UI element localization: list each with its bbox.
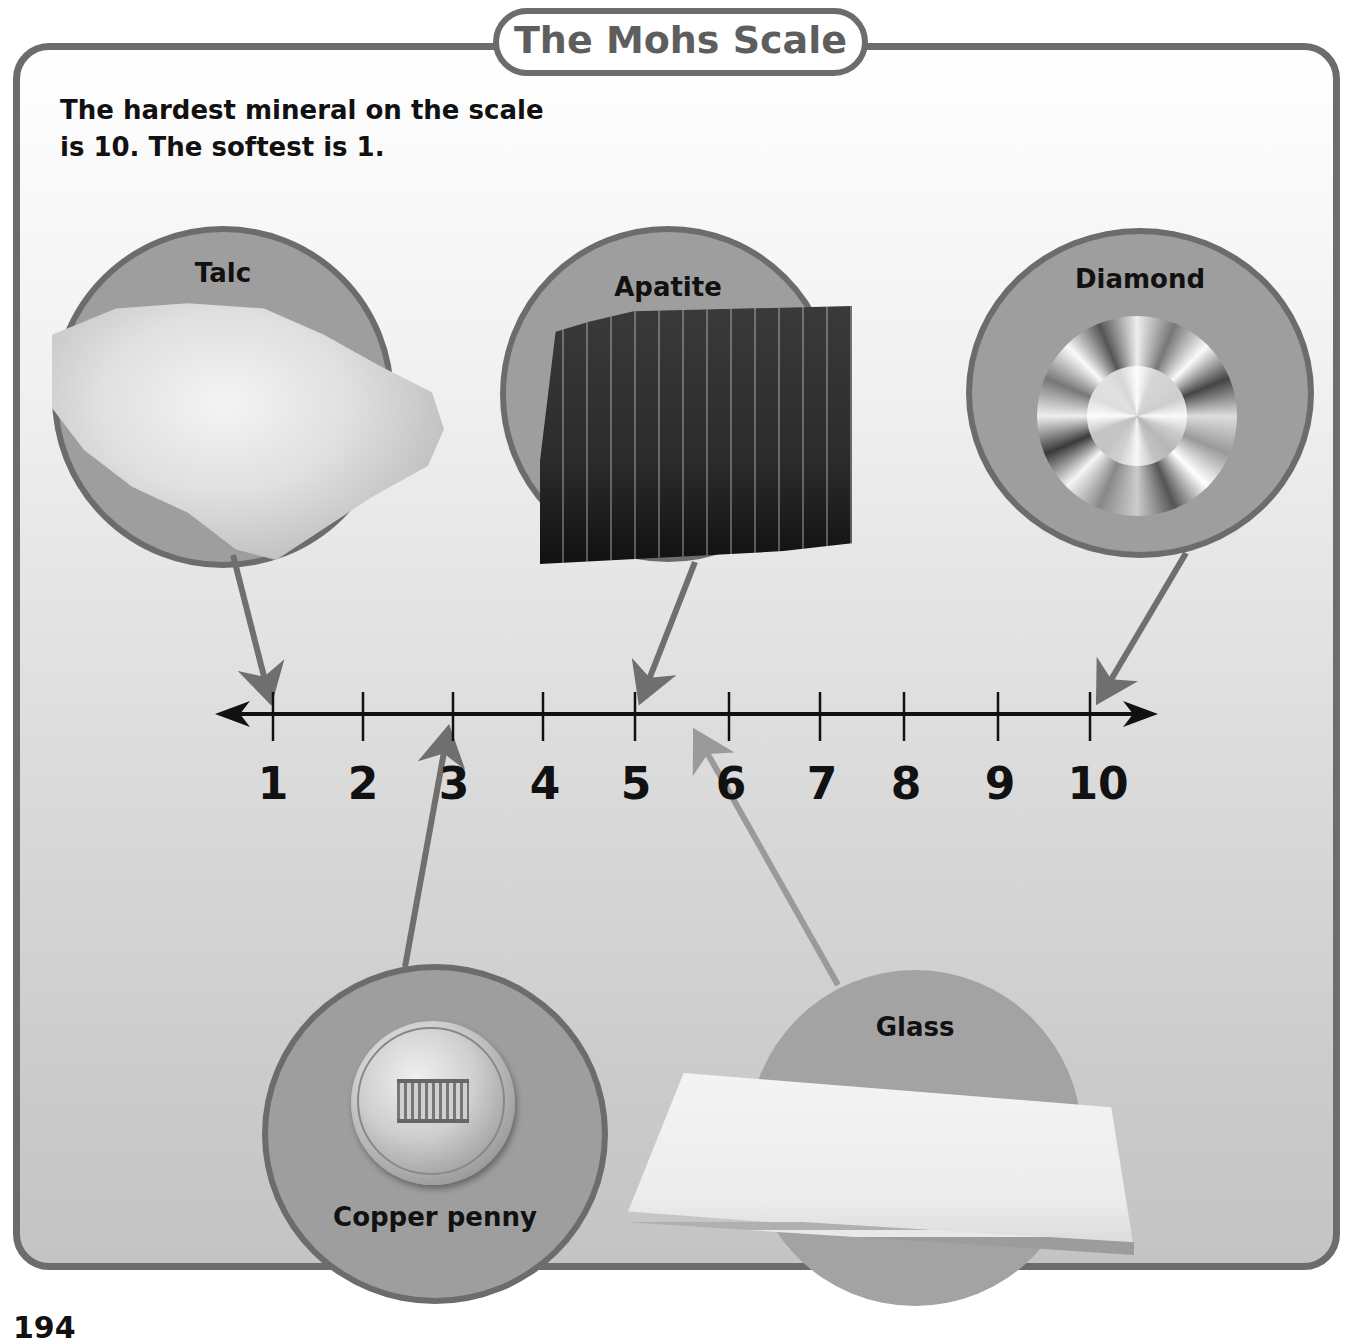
tick-label-6: 6 bbox=[691, 758, 771, 809]
tick-label-8: 8 bbox=[866, 758, 946, 809]
diamond-gem-image bbox=[1037, 316, 1237, 516]
talc-label: Talc bbox=[58, 258, 388, 288]
page-number: 194 bbox=[13, 1310, 76, 1342]
apatite-label: Apatite bbox=[506, 272, 830, 302]
tick-label-9: 9 bbox=[960, 758, 1040, 809]
intro-line-1: The hardest mineral on the scale bbox=[60, 92, 580, 129]
diagram-title: The Mohs Scale bbox=[514, 18, 847, 62]
tick-label-2: 2 bbox=[323, 758, 403, 809]
copper-penny-label: Copper penny bbox=[268, 1202, 602, 1232]
tick-label-3: 3 bbox=[414, 758, 494, 809]
penny-coin-image bbox=[351, 1021, 515, 1185]
diamond-facet-core bbox=[1087, 366, 1187, 466]
tick-label-4: 4 bbox=[505, 758, 585, 809]
intro-text: The hardest mineral on the scale is 10. … bbox=[60, 92, 580, 166]
tick-label-7: 7 bbox=[782, 758, 862, 809]
intro-line-2: is 10. The softest is 1. bbox=[60, 129, 580, 166]
title-banner: The Mohs Scale bbox=[493, 8, 868, 76]
glass-label: Glass bbox=[748, 1012, 1082, 1042]
apatite-specimen-image bbox=[540, 306, 852, 564]
diamond-label: Diamond bbox=[972, 264, 1308, 294]
tick-label-10: 10 bbox=[1058, 758, 1138, 809]
coin-memorial-icon bbox=[397, 1079, 469, 1123]
tick-label-1: 1 bbox=[233, 758, 313, 809]
tick-label-5: 5 bbox=[596, 758, 676, 809]
